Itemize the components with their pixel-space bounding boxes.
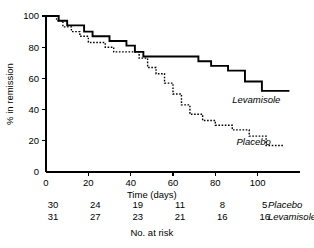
x-tick-label: 40 xyxy=(125,177,136,188)
y-tick-label: 0 xyxy=(34,166,39,177)
km-plot-svg: 020406080100020406080100Time (days)% in … xyxy=(0,0,314,248)
risk-count: 31 xyxy=(48,211,59,222)
risk-count: 19 xyxy=(132,199,143,210)
x-tick-label: 80 xyxy=(210,177,221,188)
km-survival-figure: 020406080100020406080100Time (days)% in … xyxy=(0,0,314,248)
risk-count: 11 xyxy=(175,199,185,210)
x-tick-label: 100 xyxy=(250,177,266,188)
risk-count: 24 xyxy=(90,199,101,210)
y-tick-label: 40 xyxy=(28,104,39,115)
y-tick-label: 60 xyxy=(28,73,39,84)
y-tick-label: 80 xyxy=(28,42,39,53)
curve-label-placebo: Placebo xyxy=(237,136,271,147)
risk-table-caption: No. at risk xyxy=(130,227,173,238)
risk-group-label-levamisole: Levamisole xyxy=(268,211,314,222)
risk-group-label-placebo: Placebo xyxy=(268,199,302,210)
risk-count: 30 xyxy=(48,199,59,210)
x-tick-label: 0 xyxy=(43,177,48,188)
x-tick-label: 20 xyxy=(83,177,94,188)
y-tick-label: 100 xyxy=(23,10,39,21)
risk-count: 23 xyxy=(132,211,143,222)
risk-count: 16 xyxy=(217,211,228,222)
curve-label-levamisole: Levamisole xyxy=(232,94,280,105)
risk-count: 5 xyxy=(262,199,267,210)
risk-count: 8 xyxy=(220,199,225,210)
y-tick-label: 20 xyxy=(28,135,39,146)
y-axis-title: % in remission xyxy=(4,63,15,125)
risk-count: 27 xyxy=(90,211,101,222)
curve-levamisole xyxy=(46,16,289,91)
x-tick-label: 60 xyxy=(168,177,179,188)
risk-count: 21 xyxy=(175,211,186,222)
